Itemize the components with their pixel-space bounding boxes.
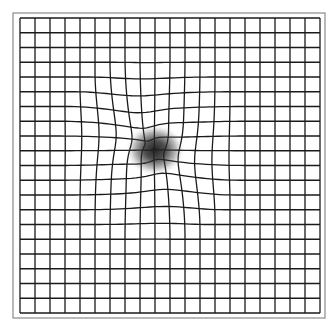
central-blur-spot-overlay xyxy=(125,124,185,176)
amsler-grid-svg xyxy=(0,0,335,329)
amsler-grid-figure xyxy=(0,0,335,329)
